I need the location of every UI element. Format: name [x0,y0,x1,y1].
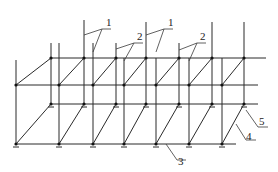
label-2-left: 2 [137,30,143,42]
scaffold-diagram: 1 1 2 2 3 4 5 [0,0,278,172]
leader-lines [84,29,268,160]
base-plates [13,107,247,147]
label-5: 5 [259,115,265,127]
label-2-right: 2 [200,30,206,42]
label-4: 4 [246,130,252,142]
label-3: 3 [178,155,184,167]
lower-diagonal-braces [16,104,244,144]
label-1-left: 1 [106,16,112,28]
label-1-right: 1 [168,16,174,28]
scaffold-frame-drawing: 1 1 2 2 3 4 5 [0,0,278,172]
upper-diagonal-braces [16,58,244,85]
